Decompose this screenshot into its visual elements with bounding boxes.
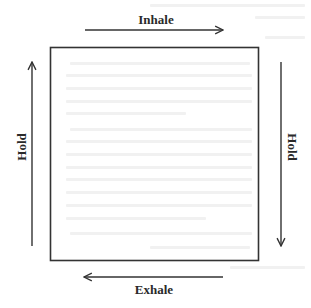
hold-label-left: Hold <box>15 133 28 160</box>
exhale-label: Exhale <box>135 283 173 296</box>
breathing-box <box>51 48 259 261</box>
hold-label-right: Hold <box>286 133 299 160</box>
box-breathing-diagram <box>0 0 311 308</box>
inhale-label: Inhale <box>138 13 173 26</box>
